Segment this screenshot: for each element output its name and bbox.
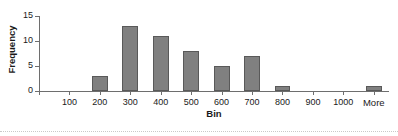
plot-area: 051015 1002003004005006007008009001000Mo… [39,16,389,92]
x-tick-mark [282,91,283,95]
bar [366,86,382,91]
x-tick-mark [161,91,162,95]
x-tick-mark [222,91,223,95]
y-tick-mark [35,16,39,17]
x-axis-line [39,91,389,92]
y-axis-title: Frequency [6,13,17,87]
x-tick-mark [100,91,101,95]
x-tick-label: 1000 [333,97,353,107]
x-tick-label: More [363,97,385,108]
x-tick-mark [343,91,344,95]
x-tick-mark-origin [39,91,40,95]
x-tick-mark [313,91,314,95]
x-tick-label: 200 [92,97,107,107]
x-tick-mark [191,91,192,95]
y-axis-line [39,16,40,92]
y-tick-label: 0 [9,85,33,95]
x-tick-mark [252,91,253,95]
bar [183,51,199,91]
bar [275,86,291,91]
bar [214,66,230,91]
histogram-chart: Frequency 051015 10020030040050060070080… [0,0,398,136]
x-tick-label: 500 [184,97,199,107]
y-tick-label: 10 [9,35,33,45]
x-tick-mark [69,91,70,95]
bar [122,26,138,91]
x-tick-label: 100 [62,97,77,107]
footer-divider [0,131,398,133]
bar [244,56,260,91]
x-tick-mark [374,91,375,95]
x-tick-label: 600 [214,97,229,107]
y-tick-mark [35,41,39,42]
bar [153,36,169,91]
x-tick-label: 900 [305,97,320,107]
y-tick-mark [35,66,39,67]
x-tick-label: 800 [275,97,290,107]
bar [92,76,108,91]
x-tick-label: 400 [153,97,168,107]
y-tick-label: 5 [9,60,33,70]
x-tick-mark [130,91,131,95]
y-tick-label: 15 [9,10,33,20]
x-tick-label: 300 [123,97,138,107]
x-axis-title: Bin [39,108,389,119]
x-tick-label: 700 [245,97,260,107]
